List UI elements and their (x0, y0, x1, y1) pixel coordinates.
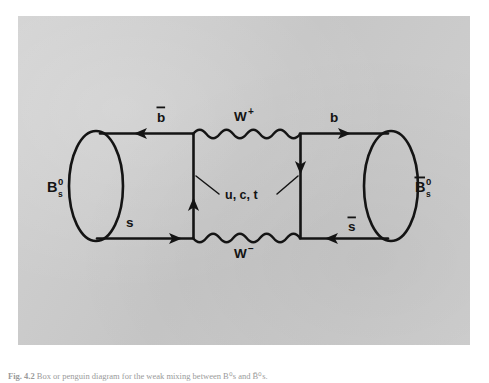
label-right-meson-overbar (415, 177, 426, 179)
label-left-meson-base: B (47, 179, 57, 195)
label-w-minus-superscript: − (248, 243, 254, 254)
label-w-plus-superscript: + (248, 106, 254, 117)
label-w-plus: W + (234, 106, 254, 124)
right-meson-blob (364, 131, 418, 241)
left-meson-blob (69, 131, 123, 241)
edge-w-plus-wavy (193, 130, 300, 139)
label-bbar: b (157, 107, 166, 126)
figure-page: B 0 s B 0 s b s b s (0, 0, 489, 383)
label-w-minus-base: W (234, 246, 247, 261)
label-right-meson-subscript: s (426, 189, 431, 199)
label-right-meson-superscript: 0 (426, 176, 431, 187)
leader-line-right (277, 176, 298, 194)
label-w-minus: W − (234, 243, 254, 261)
label-b: b (330, 110, 338, 125)
label-w-plus-base: W (234, 109, 247, 124)
label-left-meson: B 0 s (47, 176, 63, 199)
leader-line-left (196, 176, 219, 194)
edge-w-minus-wavy (193, 234, 300, 243)
label-bbar-overbar (157, 107, 166, 109)
label-sbar-base: s (348, 219, 356, 234)
label-s: s (126, 215, 134, 230)
figure-caption: Fig. 4.2 Box or penguin diagram for the … (8, 371, 478, 381)
label-sbar-overbar (348, 217, 356, 219)
label-internal-quarks: u, c, t (225, 188, 258, 202)
label-left-meson-subscript: s (58, 189, 63, 199)
label-left-meson-superscript: 0 (58, 176, 63, 187)
figure-caption-number: Fig. 4.2 (8, 371, 35, 381)
feynman-diagram: B 0 s B 0 s b s b s (0, 0, 489, 383)
label-bbar-base: b (157, 110, 165, 125)
figure-caption-text: Box or penguin diagram for the weak mixi… (37, 371, 268, 381)
label-sbar: s (348, 217, 356, 235)
label-right-meson-base: B (415, 179, 425, 195)
